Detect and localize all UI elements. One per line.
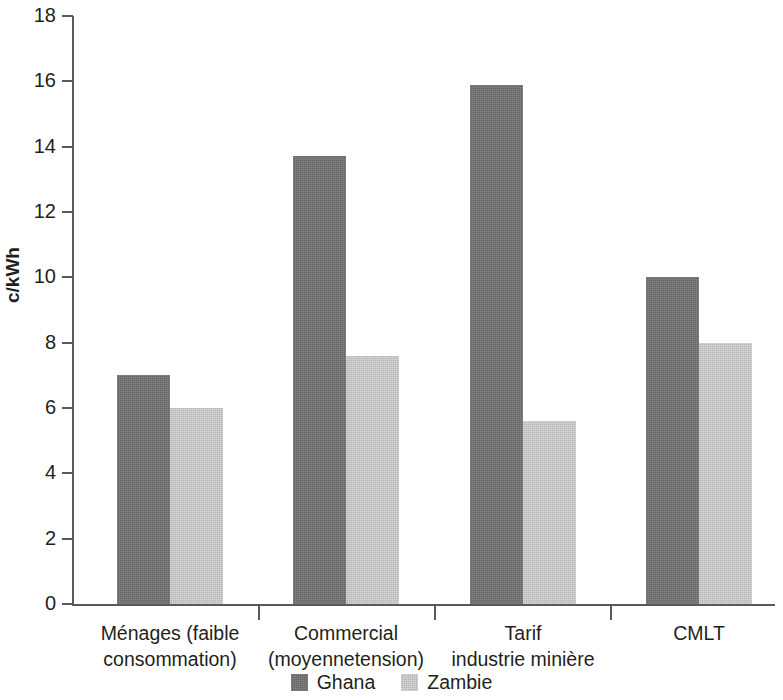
y-axis-tick-label: 18 <box>8 5 56 25</box>
y-axis-tick-label: 2 <box>8 528 56 548</box>
legend-label: Zambie <box>427 672 492 692</box>
x-axis-category-label-3: CMLT <box>584 620 783 646</box>
bar-ghana-3 <box>646 277 699 604</box>
y-axis-tick-label: 14 <box>8 136 56 156</box>
x-axis-category-label-line: CMLT <box>584 620 783 646</box>
y-axis-tick-label: 6 <box>8 397 56 417</box>
y-axis-tick-label-wrap: 2 <box>0 528 56 548</box>
bar-zambie-1 <box>346 356 399 604</box>
y-axis-tick-label: 10 <box>8 266 56 286</box>
x-axis-separator-tick <box>258 606 260 620</box>
x-axis-separator-tick <box>434 606 436 620</box>
y-axis-tick-label: 8 <box>8 332 56 352</box>
y-axis-tick-label-wrap: 16 <box>0 70 56 90</box>
bar-ghana-1 <box>293 156 346 604</box>
y-axis-tick-label-wrap: 18 <box>0 5 56 25</box>
legend-swatch-icon <box>401 674 418 691</box>
bar-zambie-2 <box>523 421 576 604</box>
legend-item-zambie[interactable]: Zambie <box>401 672 492 692</box>
bar-zambie-3 <box>699 343 752 604</box>
y-axis-tick-label: 4 <box>8 462 56 482</box>
y-axis-tick-label-wrap: 4 <box>0 462 56 482</box>
x-axis-category-label-line: industrie minière <box>408 646 638 672</box>
y-axis-tick-label-wrap: 8 <box>0 332 56 352</box>
y-axis-tick-label-wrap: 14 <box>0 136 56 156</box>
y-axis-tick-label-wrap: 12 <box>0 201 56 221</box>
legend-swatch-icon <box>291 674 308 691</box>
y-axis-tick-label-wrap: 0 <box>0 593 56 613</box>
bar-ghana-2 <box>470 85 523 604</box>
y-axis-tick-label-wrap: 6 <box>0 397 56 417</box>
x-axis-origin-tick <box>72 590 74 606</box>
legend-label: Ghana <box>317 672 376 692</box>
y-axis-tick-label: 12 <box>8 201 56 221</box>
x-axis-line <box>72 604 775 606</box>
y-axis-tick-label: 16 <box>8 70 56 90</box>
bar-chart: c/kWh 181614121086420 Ménages (faiblecon… <box>0 0 783 700</box>
x-axis-separator-tick <box>610 606 612 620</box>
legend-item-ghana[interactable]: Ghana <box>291 672 376 692</box>
plot-area <box>72 16 775 604</box>
y-axis-tick-label: 0 <box>8 593 56 613</box>
chart-legend: GhanaZambie <box>0 672 783 692</box>
bar-zambie-0 <box>170 408 223 604</box>
y-axis-tick-label-wrap: 10 <box>0 266 56 286</box>
bar-ghana-0 <box>117 375 170 604</box>
